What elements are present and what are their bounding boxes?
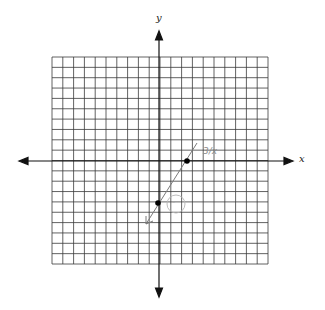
axes: [19, 31, 293, 297]
handwritten-circled-annotation: -: [172, 197, 175, 207]
x-axis-right-arrow-icon: [284, 158, 293, 165]
handwritten-annotation: 3/x: [203, 146, 217, 156]
x-axis-left-arrow-icon: [19, 158, 28, 165]
annotation-circle: [167, 195, 185, 213]
plotted-point: [184, 158, 190, 164]
plotted-point: [155, 200, 161, 206]
y-axis-up-arrow-icon: [156, 31, 163, 40]
coordinate-plane: [0, 0, 325, 310]
y-axis-down-arrow-icon: [156, 288, 163, 297]
y-axis-label: y: [156, 12, 162, 23]
x-axis-label: x: [299, 153, 305, 164]
